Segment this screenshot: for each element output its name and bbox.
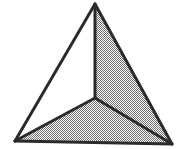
figure-canvas <box>0 0 186 149</box>
triangle-diagram <box>0 0 186 149</box>
